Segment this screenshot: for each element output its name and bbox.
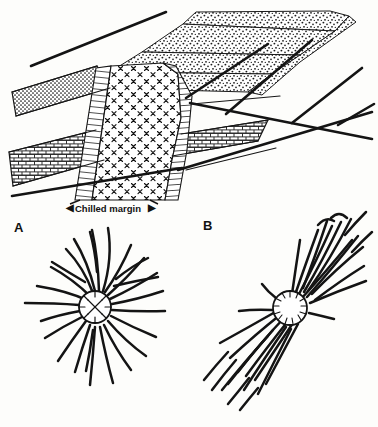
figure-root: ◀ Chilled margin ▶ A xyxy=(0,0,378,427)
panel-b-label: B xyxy=(203,218,212,233)
panel-a-label: A xyxy=(14,220,24,235)
figure-svg: ◀ Chilled margin ▶ A xyxy=(0,0,378,427)
chilled-margin-label: Chilled margin xyxy=(75,203,141,214)
panel-a-core-hatching xyxy=(79,291,111,323)
chilled-margin-arrow-right: ▶ xyxy=(147,202,157,213)
